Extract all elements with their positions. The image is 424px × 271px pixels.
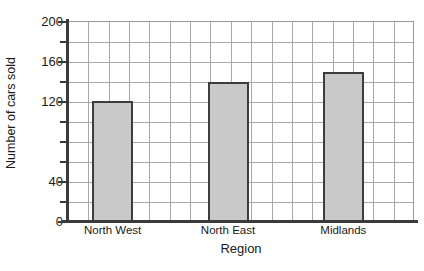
gridline-horizontal: [68, 42, 413, 43]
y-axis-tick-mark: [58, 61, 68, 63]
x-axis-tick-labels: North WestNorth EastMidlands: [68, 224, 414, 242]
bar: [92, 101, 133, 223]
plot-area: [68, 21, 414, 221]
x-axis-tick-label: North East: [201, 224, 255, 236]
y-axis-tick-mark: [58, 181, 68, 183]
gridline-vertical: [312, 22, 313, 221]
y-axis-tick-mark: [58, 221, 68, 223]
y-axis-tick-mark: [58, 21, 68, 23]
y-axis-tick-mark-minor: [60, 41, 68, 43]
x-axis-line: [62, 220, 418, 223]
x-axis-tick-label: Midlands: [320, 224, 366, 236]
y-axis-tick-mark-minor: [60, 81, 68, 83]
y-axis-tick-mark: [58, 101, 68, 103]
y-axis-title-label: Number of cars sold: [4, 57, 18, 169]
y-axis-tick-mark-minor: [60, 161, 68, 163]
y-axis-tick-mark-minor: [60, 141, 68, 143]
gridline-vertical: [170, 22, 171, 221]
gridline-vertical: [88, 22, 89, 221]
y-axis-tick-labels: 040120160200: [24, 0, 66, 232]
y-axis-tick-mark-minor: [60, 121, 68, 123]
gridline-vertical: [272, 22, 273, 221]
x-axis-title: Region: [68, 241, 414, 256]
gridline-vertical: [292, 22, 293, 221]
x-axis-title-label: Region: [220, 241, 261, 256]
bar-chart-figure: Number of cars sold 040120160200 North W…: [0, 0, 424, 271]
gridline-vertical: [251, 22, 252, 221]
gridline-vertical: [373, 22, 374, 221]
gridline-horizontal: [68, 62, 413, 63]
gridline-vertical: [394, 22, 395, 221]
gridline-vertical: [190, 22, 191, 221]
gridline-vertical: [149, 22, 150, 221]
bar: [208, 82, 249, 223]
y-axis-title: Number of cars sold: [0, 0, 22, 225]
y-axis-tick-mark-minor: [60, 201, 68, 203]
bar: [323, 72, 364, 223]
x-axis-tick-label: North West: [84, 224, 141, 236]
